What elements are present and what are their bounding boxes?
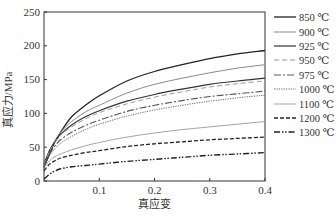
axes: 0501001502002500.10.20.30.4 (24, 6, 273, 197)
series-line-900c (44, 65, 265, 164)
legend-swatch (274, 101, 296, 107)
curves (44, 51, 265, 179)
legend-item: 1000 ℃ (274, 82, 336, 96)
legend-label: 850 ℃ (299, 11, 329, 23)
legend-item: 975 ℃ (274, 68, 336, 82)
legend-swatch (274, 29, 296, 35)
y-tick-label: 50 (29, 141, 41, 153)
x-tick-label: 0.1 (92, 184, 106, 196)
legend-label: 1300 ℃ (299, 126, 334, 138)
y-tick-label: 250 (24, 6, 41, 18)
series-line-925c (44, 78, 265, 164)
legend-item: 950 ℃ (274, 53, 336, 67)
legend-label: 1000 ℃ (299, 83, 334, 95)
x-tick-label: 0.2 (148, 184, 162, 196)
legend-label: 1100 ℃ (299, 98, 334, 110)
legend-label: 900 ℃ (299, 26, 329, 38)
legend-swatch (274, 86, 296, 92)
series-line-1300c (44, 153, 265, 179)
y-tick-label: 0 (35, 175, 41, 187)
legend-swatch (274, 115, 296, 121)
legend-label: 925 ℃ (299, 40, 329, 52)
x-tick-label: 0.3 (203, 184, 217, 196)
legend-label: 1200 ℃ (299, 112, 334, 124)
series-line-1100c (44, 122, 265, 168)
legend-item: 850 ℃ (274, 10, 336, 24)
legend: 850 ℃900 ℃925 ℃950 ℃975 ℃1000 ℃1100 ℃120… (274, 10, 336, 140)
x-axis-label: 真应变 (138, 197, 171, 210)
legend-swatch (274, 129, 296, 135)
legend-item: 1200 ℃ (274, 111, 336, 125)
legend-swatch (274, 57, 296, 63)
y-tick-label: 150 (24, 73, 41, 85)
chart-container: 0501001502002500.10.20.30.4 真应力/MPa 真应变 … (0, 0, 336, 218)
legend-swatch (274, 14, 296, 20)
y-axis-label: 真应力/MPa (1, 71, 14, 128)
legend-swatch (274, 43, 296, 49)
series-line-1000c (44, 95, 265, 167)
legend-item: 900 ℃ (274, 24, 336, 38)
legend-label: 950 ℃ (299, 54, 329, 66)
x-tick-label: 0.4 (258, 184, 272, 196)
plot-frame (44, 12, 265, 181)
legend-item: 925 ℃ (274, 39, 336, 53)
y-tick-label: 100 (24, 107, 41, 119)
legend-label: 975 ℃ (299, 69, 329, 81)
legend-item: 1100 ℃ (274, 96, 336, 110)
legend-swatch (274, 72, 296, 78)
y-tick-label: 200 (24, 39, 41, 51)
series-line-850c (44, 51, 265, 168)
legend-item: 1300 ℃ (274, 125, 336, 139)
series-line-950c (44, 81, 265, 165)
